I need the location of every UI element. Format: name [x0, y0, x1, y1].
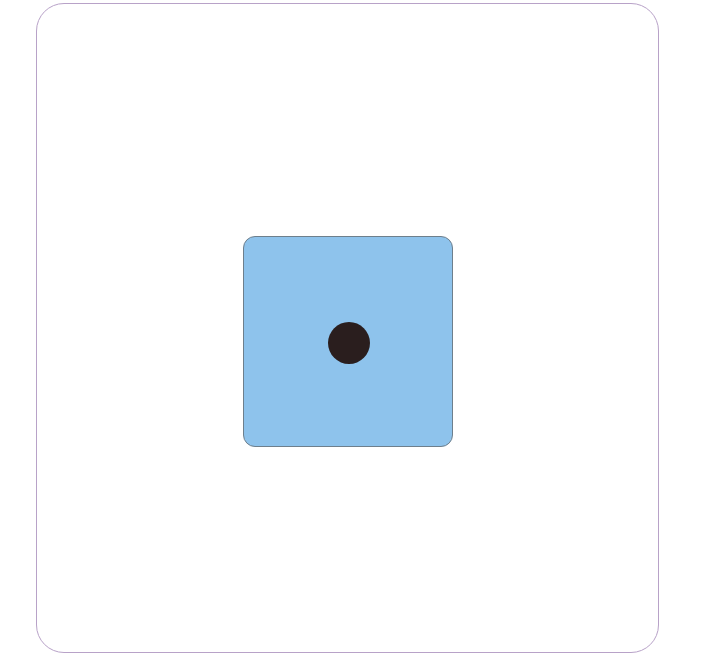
die-face — [243, 236, 453, 447]
pip-dot — [328, 322, 370, 364]
